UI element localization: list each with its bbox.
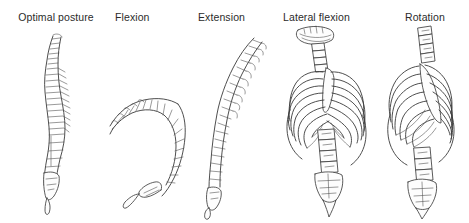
panel-label-extension: Extension [198, 11, 286, 24]
thorax-lateral-flexion [287, 26, 366, 217]
sternum-lateral-flexion [323, 68, 334, 112]
panel-lateral-flexion: Lateral flexion [282, 0, 378, 223]
thorax-illustration-rotation [378, 24, 469, 220]
thorax-rotation [388, 26, 454, 219]
panel-label-optimal-posture: Optimal posture [4, 11, 108, 24]
panel-label-rotation: Rotation [405, 11, 469, 24]
panel-flexion: Flexion [108, 0, 194, 223]
cervical-rotation [418, 26, 435, 63]
thorax-illustration-lateral-flexion [282, 24, 378, 220]
mandible-lateral-flexion [296, 26, 333, 44]
sternum-rotation [420, 64, 441, 123]
panel-rotation: Rotation [378, 0, 469, 223]
cervical-vertebrae-optimal [48, 34, 62, 64]
spinal-movements-figure: Optimal posture [0, 0, 469, 223]
lumbar-lateral-flexion [318, 129, 338, 173]
panel-label-lateral-flexion: Lateral flexion [283, 11, 379, 24]
vertebrae-flexion [112, 100, 184, 183]
sacrum-optimal [44, 172, 60, 200]
thoracic-vertebrae-optimal [46, 68, 70, 132]
vertebral-column-flexed [110, 99, 185, 209]
vertebral-column-neutral [44, 34, 70, 214]
spine-illustration-optimal-posture [4, 30, 108, 220]
lumbar-rotation [414, 147, 433, 181]
coccyx-flexion [123, 194, 139, 208]
coccyx-optimal [45, 198, 50, 214]
vertebral-column-extended [205, 38, 267, 219]
spine-illustration-flexion [108, 30, 194, 220]
panel-label-flexion: Flexion [115, 11, 201, 24]
panel-extension: Extension [194, 0, 282, 223]
coccyx-extension [205, 208, 211, 219]
spine-illustration-extension [194, 30, 282, 220]
coccyx-lateral-flexion [323, 200, 336, 217]
coccyx-rotation [416, 208, 429, 219]
panel-optimal-posture: Optimal posture [4, 0, 108, 223]
sacrum-flexion [139, 182, 162, 197]
cervical-lateral-flexion [312, 43, 328, 72]
